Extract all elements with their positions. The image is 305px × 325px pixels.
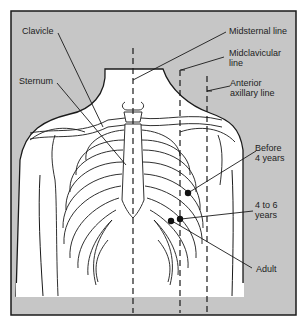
label-midsternal-line: Midsternal line bbox=[229, 26, 287, 36]
dot-adult bbox=[168, 218, 174, 224]
dot-4-to-6-years bbox=[177, 216, 183, 222]
label-sternum: Sternum bbox=[19, 76, 53, 86]
label-anterior-axillary-line: Anterior axillary line bbox=[230, 78, 275, 98]
label-adult: Adult bbox=[256, 264, 277, 274]
label-4-to-6-years: 4 to 6 years bbox=[255, 200, 278, 220]
dot-before-4-years bbox=[185, 190, 191, 196]
label-midclavicular-line: Midclavicular line bbox=[229, 48, 281, 68]
label-clavicle: Clavicle bbox=[22, 26, 54, 36]
label-before-4-years: Before 4 years bbox=[255, 143, 285, 163]
